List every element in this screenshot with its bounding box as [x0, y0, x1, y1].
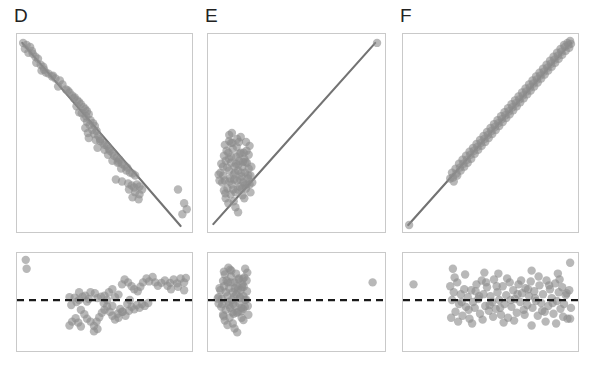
panel-label-E: E [205, 6, 218, 25]
panel-E-scatter-canvas [208, 34, 385, 232]
panel-D-scatter-plot [16, 33, 193, 233]
panel-F-scatter-canvas [403, 34, 578, 232]
panel-label-F: F [400, 6, 412, 25]
panel-E-residual-plot [207, 252, 386, 352]
panel-D-scatter-canvas [17, 34, 192, 232]
panel-E-residual-canvas [208, 253, 385, 351]
panel-F-residual-canvas [403, 253, 578, 351]
panel-label-D: D [14, 6, 28, 25]
panel-F-residual-plot [402, 252, 579, 352]
panel-F-scatter-plot [402, 33, 579, 233]
figure-panel-grid: D E F [0, 0, 593, 368]
panel-D-residual-plot [16, 252, 193, 352]
panel-D-residual-canvas [17, 253, 192, 351]
panel-E-scatter-plot [207, 33, 386, 233]
